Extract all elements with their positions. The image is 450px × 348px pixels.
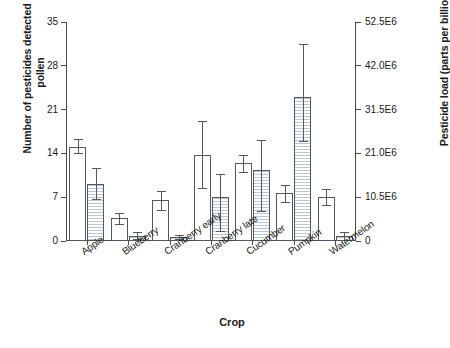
error-bar-cap-upper: [281, 185, 290, 186]
error-bar-cap-upper: [322, 189, 331, 190]
error-bar-cap-lower: [92, 199, 101, 200]
y-tick-right: [356, 22, 361, 23]
error-bar-line: [161, 191, 162, 210]
y-tick-label-right: 42.0E6: [365, 61, 397, 71]
y-tick-left: [61, 109, 66, 110]
x-axis-title: Crop: [0, 316, 442, 328]
error-bar-cap-upper: [299, 44, 308, 45]
y-tick-label-right: 10.5E6: [365, 192, 397, 202]
error-bar-cap-upper: [216, 174, 225, 175]
error-bar-cap-upper: [74, 139, 83, 140]
error-bar-cap-upper: [157, 191, 166, 192]
plot-area: 0714212835 010.5E621.0E631.5E642.0E652.5…: [66, 22, 356, 241]
error-bar-cap-lower: [115, 224, 124, 225]
y-tick-label-left: 14: [47, 148, 58, 158]
error-bar-cap-lower: [157, 210, 166, 211]
y-tick-left: [61, 65, 66, 66]
error-bar-cap-lower: [257, 211, 266, 212]
error-bar-cap-lower: [239, 172, 248, 173]
error-bar-line: [119, 213, 120, 224]
error-bar-line: [78, 139, 79, 153]
y-tick-left: [61, 241, 66, 242]
error-bar-cap-lower: [281, 202, 290, 203]
y-axis-right-line: [355, 22, 356, 241]
y-tick-label-left: 21: [47, 105, 58, 115]
y-axis-right-title: Pesticide load (parts per billion): [438, 0, 450, 163]
error-bar-cap-upper: [239, 155, 248, 156]
y-tick-label-left: 35: [47, 17, 58, 27]
y-tick-right: [356, 153, 361, 154]
error-bar-cap-upper: [198, 121, 207, 122]
y-axis-left-line: [66, 22, 67, 241]
y-tick-left: [61, 153, 66, 154]
error-bar-cap-upper: [92, 168, 101, 169]
y-tick-label-right: 21.0E6: [365, 148, 397, 158]
error-bar-cap-lower: [74, 153, 83, 154]
y-tick-label-right: 52.5E6: [365, 17, 397, 27]
y-tick-left: [61, 22, 66, 23]
y-tick-right: [356, 197, 361, 198]
y-tick-label-left: 28: [47, 61, 58, 71]
y-tick-right: [356, 65, 361, 66]
error-bar-line: [220, 174, 221, 231]
error-bar-cap-lower: [322, 205, 331, 206]
y-tick-label-right: 0: [365, 236, 371, 246]
error-bar-line: [326, 189, 327, 205]
y-axis-left-title: Number of pesticides detected in pollen: [21, 0, 46, 168]
error-bar-cap-lower: [198, 188, 207, 189]
error-bar-cap-upper: [115, 213, 124, 214]
bar-pesticide-count: [69, 147, 86, 241]
y-tick-label-left: 7: [52, 192, 58, 202]
error-bar-cap-lower: [299, 141, 308, 142]
y-tick-label-left: 0: [52, 236, 58, 246]
y-tick-label-right: 31.5E6: [365, 105, 397, 115]
error-bar-cap-upper: [257, 140, 266, 141]
error-bar-line: [243, 155, 244, 173]
error-bar-line: [96, 168, 97, 199]
y-tick-left: [61, 197, 66, 198]
y-tick-right: [356, 109, 361, 110]
error-bar-line: [261, 140, 262, 211]
error-bar-cap-lower: [216, 231, 225, 232]
y-tick-right: [356, 241, 361, 242]
error-bar-line: [303, 44, 304, 141]
error-bar-line: [285, 185, 286, 203]
error-bar-line: [202, 121, 203, 188]
